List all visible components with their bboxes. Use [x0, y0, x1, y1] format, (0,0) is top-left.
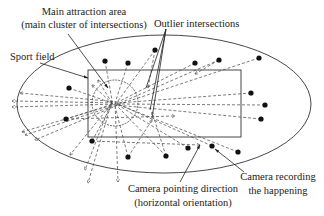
- camera-dot: [163, 153, 168, 158]
- camera-dot: [66, 85, 71, 90]
- camera-dot: [209, 143, 214, 148]
- camera-recording-label-line2: the happening: [248, 185, 308, 196]
- camera-dot: [258, 116, 263, 121]
- camera-dot: [235, 149, 240, 154]
- camera-dot: [89, 138, 94, 143]
- diagram-canvas: Main attraction area (main cluster of in…: [0, 0, 324, 216]
- main-attraction-label-line1: Main attraction area: [42, 6, 127, 17]
- camera-intersection-diagram: Main attraction area (main cluster of in…: [0, 0, 324, 216]
- cameras: [63, 47, 267, 159]
- camera-dot: [102, 58, 107, 63]
- camera-recording-label-line1: Camera recording: [240, 171, 316, 182]
- camera-dot: [248, 90, 253, 95]
- camera-dot: [63, 116, 68, 121]
- camera-dot: [192, 60, 197, 65]
- camera-dot: [185, 145, 190, 150]
- camera-dot: [262, 102, 267, 107]
- outlier-intersections-label: Outlier intersections: [154, 18, 239, 29]
- camera-dot: [125, 60, 130, 65]
- camera-direction-label-line2: (horizontal orientation): [134, 197, 232, 209]
- camera-dot: [216, 57, 221, 62]
- sport-field-label: Sport field: [10, 51, 55, 62]
- main-attraction-label-line2: (main cluster of intersections): [21, 19, 147, 31]
- camera-dot: [152, 47, 157, 52]
- camera-dot: [125, 154, 130, 159]
- camera-dot: [256, 55, 261, 60]
- camera-direction-label-line1: Camera pointing direction: [128, 183, 239, 194]
